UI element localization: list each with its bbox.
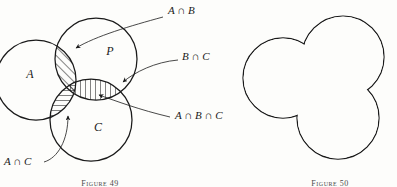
figure-canvas: A P C A ∩ B B ∩ C A ∩ B ∩ C A ∩ C Figure… — [0, 0, 397, 187]
caption-right: Figure 50 — [311, 179, 348, 187]
set-label-a: A — [25, 67, 34, 81]
annotation-a-intersect-b: A ∩ B — [167, 4, 195, 16]
union-outline — [243, 16, 384, 159]
set-label-b: P — [105, 44, 114, 58]
annotation-a-intersect-b-intersect-c: A ∩ B ∩ C — [174, 109, 223, 121]
annotation-a-intersect-c: A ∩ C — [3, 155, 32, 167]
leader-a-intersect-b — [76, 17, 163, 48]
leader-a-intersect-c — [44, 116, 68, 162]
set-label-c: C — [94, 120, 103, 134]
right-union-figure: Figure 50 — [243, 16, 384, 187]
left-venn-diagram: A P C A ∩ B B ∩ C A ∩ B ∩ C A ∩ C Figure… — [0, 4, 223, 187]
caption-left: Figure 49 — [81, 179, 118, 187]
annotation-b-intersect-c: B ∩ C — [182, 50, 210, 62]
